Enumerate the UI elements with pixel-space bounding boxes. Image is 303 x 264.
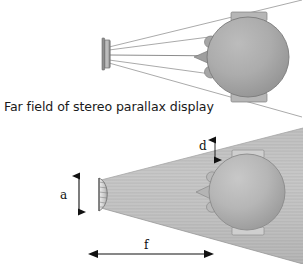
stereo-parallax-figure: Far field of stereo parallax display [0,0,303,264]
flat-display-panel [102,38,110,70]
head-skull [209,154,285,230]
aperture-label: a [60,188,67,202]
head-skull [207,17,289,97]
figure-caption: Far field of stereo parallax display [4,99,214,114]
spot-label: d [199,139,207,153]
figure-container: Far field of stereo parallax display [0,0,303,264]
